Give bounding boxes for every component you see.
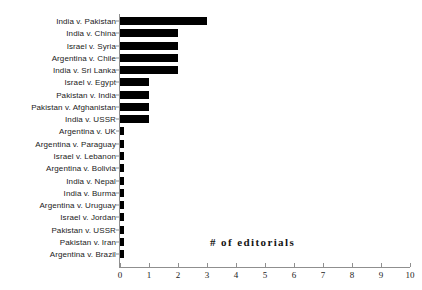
chart-category-row: Israel v. Lebanon (0, 150, 422, 162)
x-axis-tick (178, 263, 179, 267)
bar (120, 103, 149, 111)
y-axis-line (119, 14, 120, 268)
chart-category-row: India v. Sri Lanka (0, 64, 422, 76)
x-axis-tick-label: 2 (166, 270, 190, 281)
bar (120, 152, 124, 160)
bar (120, 226, 124, 234)
x-axis-tick-label: 4 (224, 270, 248, 281)
category-label: Israel v. Lebanon (54, 151, 116, 160)
x-axis-tick (323, 263, 324, 267)
bar (120, 201, 124, 209)
x-axis-title: # of editorials (210, 236, 295, 248)
category-label: Argentina v. Uruguay (39, 201, 116, 210)
bar (120, 29, 178, 37)
chart-category-row: Argentina v. Paraguay (0, 138, 422, 150)
x-axis-tick-label: 5 (253, 270, 277, 281)
chart-category-row: Pakistan v. USSR (0, 224, 422, 236)
x-axis-tick (149, 263, 150, 267)
x-axis-tick (381, 263, 382, 267)
category-label: India v. Nepal (66, 176, 116, 185)
category-label: Israel v. Egypt (64, 78, 116, 87)
category-label: Argentina v. Chile (52, 53, 116, 62)
category-label: Pakistan v. India (56, 90, 116, 99)
category-label: Argentina v. UK (59, 127, 116, 136)
chart-category-row: India v. Burma (0, 187, 422, 199)
category-label: Pakistan v. Afghanistan (31, 102, 116, 111)
bar (120, 17, 207, 25)
x-axis-tick-label: 1 (137, 270, 161, 281)
bar (120, 164, 124, 172)
category-label: Argentina v. Brazil (50, 250, 116, 259)
bar (120, 91, 149, 99)
bar (120, 177, 124, 185)
x-axis-tick-label: 9 (369, 270, 393, 281)
category-label: Pakistan v. USSR (51, 225, 116, 234)
chart-category-row: Pakistan v. Afghanistan (0, 101, 422, 113)
x-axis-tick-label: 3 (195, 270, 219, 281)
x-axis-tick (265, 263, 266, 267)
category-label: Argentina v. Paraguay (35, 139, 116, 148)
bar (120, 66, 178, 74)
x-axis-tick (352, 263, 353, 267)
bar (120, 189, 124, 197)
bar (120, 213, 124, 221)
x-axis-tick (294, 263, 295, 267)
x-axis-tick-label: 7 (311, 270, 335, 281)
bar (120, 238, 124, 246)
x-axis-tick (120, 263, 121, 267)
chart-category-row: Argentina v. Brazil (0, 248, 422, 260)
category-label: Israel v. Jordan (60, 213, 116, 222)
chart-category-row: India v. Nepal (0, 175, 422, 187)
category-label: India v. Pakistan (56, 17, 116, 26)
x-axis-tick-label: 8 (340, 270, 364, 281)
x-axis-tick (207, 263, 208, 267)
chart-category-row: Israel v. Egypt (0, 76, 422, 88)
chart-category-row: Argentina v. Bolivia (0, 162, 422, 174)
bar (120, 127, 124, 135)
category-label: India v. Burma (64, 188, 116, 197)
bar (120, 115, 149, 123)
x-axis-tick (236, 263, 237, 267)
category-label: Israel v. Syria (67, 41, 116, 50)
editorials-bar-chart: India v. PakistanIndia v. ChinaIsrael v.… (0, 0, 422, 290)
x-axis-line (120, 267, 410, 268)
category-label: India v. USSR (65, 115, 116, 124)
bar (120, 250, 124, 258)
category-label: Pakistan v. Iran (60, 237, 116, 246)
bar (120, 42, 178, 50)
x-axis-tick-label: 0 (108, 270, 132, 281)
category-label: India v. China (66, 29, 116, 38)
bar (120, 54, 178, 62)
category-label: Argentina v. Bolivia (46, 164, 116, 173)
chart-category-row: Argentina v. UK (0, 125, 422, 137)
chart-category-row: Pakistan v. India (0, 89, 422, 101)
chart-category-row: Israel v. Syria (0, 40, 422, 52)
bar (120, 78, 149, 86)
category-label: India v. Sri Lanka (53, 66, 116, 75)
x-axis-tick-label: 6 (282, 270, 306, 281)
chart-category-row: India v. Pakistan (0, 15, 422, 27)
chart-category-row: India v. USSR (0, 113, 422, 125)
chart-category-row: Argentina v. Chile (0, 52, 422, 64)
chart-category-row: Israel v. Jordan (0, 211, 422, 223)
x-axis-tick (410, 263, 411, 267)
bar (120, 140, 124, 148)
chart-category-row: India v. China (0, 27, 422, 39)
x-axis-tick-label: 10 (398, 270, 422, 281)
chart-category-row: Argentina v. Uruguay (0, 199, 422, 211)
